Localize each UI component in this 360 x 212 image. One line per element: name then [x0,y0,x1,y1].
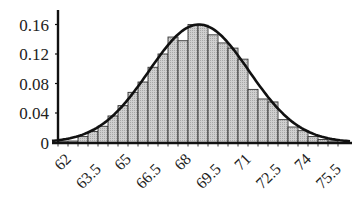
histogram-bar [308,137,318,143]
y-tick-label: 0.04 [19,104,49,123]
x-tick-label: 72.5 [252,160,284,192]
x-tick-label: 75.5 [312,160,344,192]
histogram-bar [208,35,218,143]
histogram-bar [198,25,208,142]
histogram-bar [218,43,228,143]
histogram-bar [228,48,238,142]
y-tick-label: 0 [41,134,50,153]
histogram-bar [238,59,248,142]
x-tick-label: 74 [291,150,314,173]
histogram-bar [158,54,168,143]
histogram-bar [78,137,88,143]
histogram-chart: 00.040.080.120.16 6263.56566.56869.57172… [0,0,360,212]
x-tick-label: 71 [231,150,254,173]
y-tick-label: 0.16 [19,16,49,35]
y-tick-label: 0.08 [19,75,49,94]
x-tick-label: 63.5 [72,160,104,192]
histogram-bar [148,67,158,142]
histogram-bar [128,92,138,142]
histogram-bar [98,126,108,142]
histogram-bar [138,82,148,142]
x-axis: 6263.56566.56869.57172.57475.5 [51,143,352,192]
x-tick-label: 69.5 [192,160,224,192]
histogram-bar [288,127,298,142]
histogram-bar [188,25,198,143]
histogram-bar [258,99,268,143]
histogram-bar [168,37,178,142]
x-tick-label: 65 [111,150,134,173]
histogram-bar [118,106,128,143]
histogram-bar [178,41,188,143]
x-tick-label: 62 [51,150,74,173]
x-tick-label: 68 [171,150,194,173]
x-tick-label: 66.5 [132,160,164,192]
y-axis: 00.040.080.120.16 [19,10,58,153]
histogram-bar [298,131,308,143]
histogram-bar [278,120,288,143]
y-tick-label: 0.12 [19,45,49,64]
histogram-bar [248,89,258,142]
